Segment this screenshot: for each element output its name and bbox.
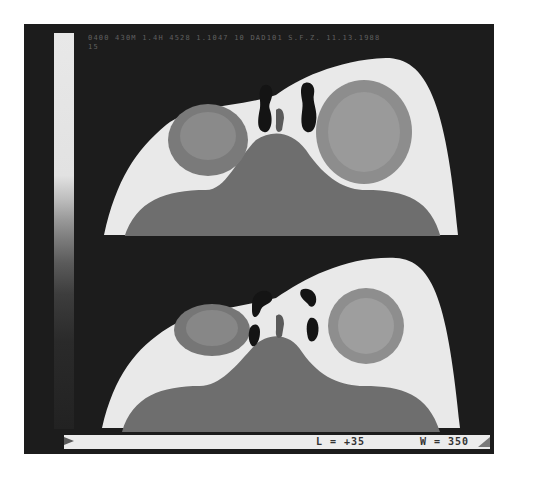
- grayscale-reference-bar: [54, 33, 74, 429]
- ct-slice-bottom: [96, 236, 466, 432]
- window-width-label: W = 350: [420, 436, 469, 447]
- window-level-label: L = +35: [316, 436, 365, 447]
- ct-slice-top: [96, 40, 466, 240]
